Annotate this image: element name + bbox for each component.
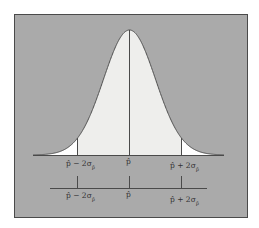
normal-curve-figure: p̂ − 2σp̂ p̂ p̂ + 2σp̂ p̂ − 2σp̂ p̂ p̂ +… bbox=[0, 0, 259, 228]
upper-label-center: p̂ bbox=[126, 157, 131, 166]
lower-label-center: p̂ bbox=[126, 190, 131, 199]
